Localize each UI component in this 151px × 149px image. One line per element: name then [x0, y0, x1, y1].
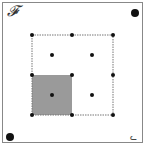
- grid-dot: [30, 33, 34, 37]
- lattice-diagram: [0, 0, 151, 149]
- grid-dot: [70, 33, 74, 37]
- center-dot: [50, 53, 54, 57]
- center-dot: [90, 93, 94, 97]
- grid-dot: [30, 73, 34, 77]
- grid-dot: [111, 33, 115, 37]
- grid-dot: [70, 73, 74, 77]
- grid-dots: [6, 9, 139, 141]
- center-dot: [50, 93, 54, 97]
- grid-dot: [111, 73, 115, 77]
- corner-dot: [6, 133, 14, 141]
- center-dot: [90, 53, 94, 57]
- grid-dot: [111, 113, 115, 117]
- grid-dot: [70, 113, 74, 117]
- corner-dot: [131, 9, 139, 17]
- grid-dot: [30, 113, 34, 117]
